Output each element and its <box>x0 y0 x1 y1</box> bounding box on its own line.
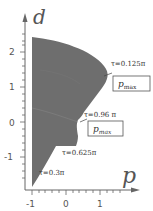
x-tick-label: 1 <box>97 199 103 209</box>
y-axis-arrow-icon <box>23 13 28 22</box>
tau-annotation: τ=0.96 π <box>84 111 117 119</box>
pmax-sub: max <box>124 83 137 90</box>
y-tick-label: -1 <box>4 152 13 162</box>
y-tick-label: 1 <box>9 82 15 92</box>
feasible-region-diagram: 2 1 0 -1 d -1 0 1 p τ=0.125π pmax τ=0.96… <box>0 0 153 211</box>
x-axis-arrow-icon <box>131 188 140 193</box>
y-tick-label: 0 <box>9 118 15 128</box>
pmax-sub: max <box>99 128 112 135</box>
tau-annotation: τ=0.625π <box>62 149 97 157</box>
y-ticks <box>20 34 25 178</box>
pointer-line <box>80 119 87 122</box>
tau-annotation: τ=0.125π <box>111 60 146 68</box>
y-tick-label: 2 <box>9 47 15 57</box>
tau-annotation: τ=0.3π <box>39 169 65 177</box>
x-axis-label: p <box>122 163 136 188</box>
x-tick-label: -1 <box>26 199 35 209</box>
y-axis-label: d <box>33 5 46 29</box>
x-tick-label: 0 <box>63 199 69 209</box>
x-ticks <box>32 190 120 195</box>
